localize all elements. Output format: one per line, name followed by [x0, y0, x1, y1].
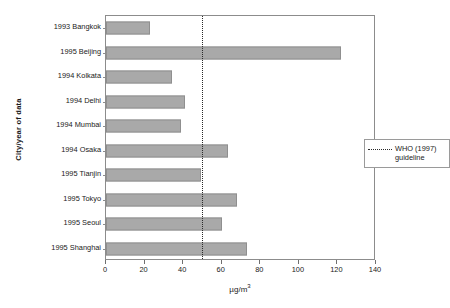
category-label: 1994 Mumbai — [1, 120, 101, 129]
category-label: 1995 Shanghai — [1, 243, 101, 252]
x-axis-tick-label: 40 — [167, 265, 197, 274]
x-axis-tick-label: 60 — [206, 265, 236, 274]
x-axis-tick-label: 20 — [129, 265, 159, 274]
legend-dotted-line-icon — [368, 149, 392, 150]
x-axis-tick — [105, 260, 106, 264]
x-axis-unit-exponent: 3 — [247, 283, 250, 289]
x-axis-tick-label: 120 — [321, 265, 351, 274]
x-axis-tick-label: 80 — [244, 265, 274, 274]
legend-label-line1: WHO (1997) — [395, 144, 436, 153]
category-label: 1995 Tokyo — [1, 194, 101, 203]
category-label-column: 1993 Bangkok1995 Beijing1994 Kolkata1994… — [0, 15, 101, 260]
x-axis: 020406080100120140 — [105, 260, 375, 282]
x-axis-tick — [298, 260, 299, 264]
x-axis-tick-label: 0 — [90, 265, 120, 274]
category-label: 1995 Beijing — [1, 47, 101, 56]
x-axis-title: µg/m3 — [105, 283, 375, 294]
x-axis-tick — [375, 260, 376, 264]
guideline-layer — [106, 16, 374, 259]
category-label: 1993 Bangkok — [1, 22, 101, 31]
x-axis-tick — [336, 260, 337, 264]
who-guideline-line — [202, 16, 203, 259]
legend-label: WHO (1997) guideline — [395, 144, 436, 163]
x-axis-tick — [259, 260, 260, 264]
category-label: 1994 Osaka — [1, 145, 101, 154]
x-axis-tick-label: 140 — [360, 265, 390, 274]
x-axis-tick-label: 100 — [283, 265, 313, 274]
category-label: 1995 Seoul — [1, 218, 101, 227]
x-axis-unit: µg/m — [229, 285, 247, 294]
category-label: 1994 Delhi — [1, 96, 101, 105]
x-axis-tick — [144, 260, 145, 264]
category-label: 1994 Kolkata — [1, 71, 101, 80]
x-axis-tick — [182, 260, 183, 264]
legend-box: WHO (1997) guideline — [364, 139, 450, 168]
legend-label-line2: guideline — [395, 153, 436, 162]
x-axis-tick — [221, 260, 222, 264]
category-label: 1995 Tianjin — [1, 169, 101, 178]
plot-area: WHO (1997) guideline — [105, 15, 375, 260]
